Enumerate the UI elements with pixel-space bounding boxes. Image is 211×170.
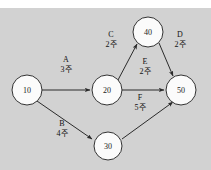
edge-D-name: D [177,30,183,39]
edge-B-name: B [59,119,64,128]
node-40-label: 40 [144,28,152,37]
edge-label-B: B 4주 [57,119,68,138]
edge-label-A: A 3주 [61,55,72,74]
edge-label-F: F 5주 [135,93,146,112]
edge-C-name: C [108,30,113,39]
edge-label-D: D 2주 [175,30,186,49]
node-10[interactable]: 10 [12,75,42,105]
node-50[interactable]: 50 [166,75,196,105]
node-layer: 10 20 30 40 50 [12,17,196,160]
node-20-label: 20 [103,86,111,95]
node-10-label: 10 [23,86,31,95]
edge-D-duration: 2주 [175,40,186,49]
edge-A-duration: 3주 [61,65,72,74]
edge-label-E: E 2주 [140,57,151,76]
edge-A-name: A [63,55,69,64]
edge-E-name: E [143,57,148,66]
edge-E-duration: 2주 [140,67,151,76]
diagram-canvas: 10 20 30 40 50 A 3주 [0,0,211,170]
edge-C-duration: 2주 [106,40,117,49]
network-diagram: 10 20 30 40 50 A 3주 [0,0,211,170]
edge-F-name: F [138,93,143,102]
node-20[interactable]: 20 [92,75,122,105]
node-30-label: 30 [104,142,112,151]
node-40[interactable]: 40 [133,17,163,47]
edge-label-C: C 2주 [106,30,117,49]
edge-C-line [118,44,137,80]
edge-F-line [122,102,173,139]
edge-D-line [159,43,173,76]
node-30[interactable]: 30 [94,132,122,160]
node-50-label: 50 [177,86,185,95]
edge-B-duration: 4주 [57,129,68,138]
edge-F-duration: 5주 [135,103,146,112]
